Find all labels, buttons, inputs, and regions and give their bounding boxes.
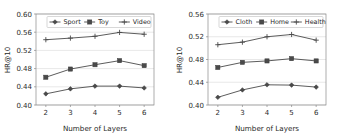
y-tick-label: 0.48 (188, 56, 204, 64)
legend-label-sport: Sport (64, 18, 82, 26)
data-point-toy-6 (142, 64, 146, 68)
y-tick-label: 0.52 (188, 33, 204, 41)
x-tick-label: 2 (44, 109, 48, 117)
x-tick-label: 5 (289, 109, 293, 117)
y-tick-label: 0.60 (16, 11, 32, 19)
y-tick-label: 0.44 (188, 79, 204, 87)
chart-panel-right: 0.400.440.480.520.56 23456 ClothHomeHeal… (171, 0, 342, 134)
left-chart-svg: 0.400.440.480.520.560.60 23456 SportToyV… (0, 0, 171, 134)
data-point-toy-4 (93, 63, 97, 67)
data-point-toy-3 (68, 67, 72, 71)
x-tick-label: 6 (314, 109, 319, 117)
legend-label-cloth: Cloth (236, 18, 253, 26)
y-tick-label: 0.56 (16, 29, 32, 37)
left-chart-legend: SportToyVideo (47, 17, 151, 28)
right-chart-legend: ClothHomeHealth (219, 17, 326, 28)
data-point-home-5 (289, 57, 293, 61)
x-tick-label: 2 (216, 109, 220, 117)
data-point-home-6 (314, 59, 318, 63)
right-chart-svg: 0.400.440.480.520.56 23456 ClothHomeHeal… (171, 0, 343, 134)
figure-container: 0.400.440.480.520.560.60 23456 SportToyV… (0, 0, 343, 134)
left-x-axis-title: Number of Layers (63, 124, 127, 133)
legend-label-video: Video (133, 18, 151, 26)
legend-label-home: Home (270, 18, 289, 26)
y-tick-label: 0.40 (188, 102, 204, 110)
y-tick-label: 0.56 (188, 11, 204, 19)
legend-marker-home (260, 20, 264, 24)
left-y-axis-title: HR@10 (3, 46, 12, 73)
y-tick-label: 0.44 (16, 83, 32, 91)
chart-panel-left: 0.400.440.480.520.560.60 23456 SportToyV… (0, 0, 171, 134)
data-point-toy-5 (117, 59, 121, 63)
data-point-home-3 (240, 60, 244, 64)
x-tick-label: 6 (142, 109, 147, 117)
x-tick-label: 4 (93, 109, 98, 117)
legend-label-health: Health (305, 18, 326, 26)
x-tick-label: 3 (68, 109, 72, 117)
x-tick-label: 4 (265, 109, 270, 117)
y-tick-label: 0.48 (16, 65, 32, 73)
x-tick-label: 3 (240, 109, 244, 117)
y-tick-label: 0.40 (16, 102, 32, 110)
data-point-home-2 (216, 65, 220, 69)
right-y-axis-title: HR@10 (175, 46, 184, 73)
data-point-toy-2 (44, 75, 48, 79)
right-x-axis-title: Number of Layers (235, 124, 299, 133)
x-tick-label: 5 (117, 109, 121, 117)
y-tick-label: 0.52 (16, 47, 32, 55)
legend-label-toy: Toy (97, 18, 109, 26)
data-point-home-4 (265, 59, 269, 63)
legend-marker-toy (88, 20, 92, 24)
